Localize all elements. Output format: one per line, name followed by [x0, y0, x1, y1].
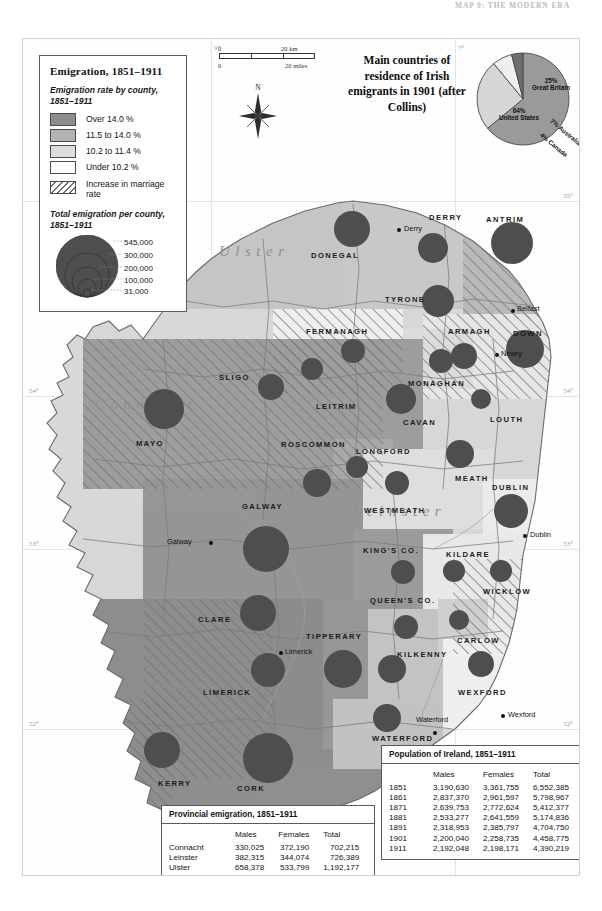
county-emigration-circle — [243, 733, 293, 783]
county-label: CORK — [237, 784, 265, 793]
county-emigration-circle — [422, 285, 454, 317]
legend-prop-subtitle: Total emigration per county, 1851–1911 — [50, 209, 176, 230]
table-column-header: Total — [519, 769, 569, 782]
county-label: MEATH — [455, 474, 489, 483]
scale-bar-body — [219, 53, 315, 59]
county-emigration-circle — [341, 339, 365, 363]
table-column-header: Females — [264, 829, 309, 842]
county-label: DONEGAL — [311, 251, 359, 260]
county-emigration-circle — [446, 440, 474, 468]
table-column-header: Total — [309, 829, 359, 842]
provincial-table-body: MalesFemalesTotal Connacht330,025372,190… — [162, 824, 374, 876]
scale-tick-1 — [251, 53, 252, 59]
legend-title: Emigration, 1851–1911 — [50, 65, 176, 77]
population-table-body: MalesFemalesTotal 18513,190,6303,361,755… — [382, 764, 580, 859]
table-cell: 372,190 — [264, 842, 309, 852]
county-emigration-circle — [451, 343, 477, 369]
county-emigration-circle — [378, 655, 406, 683]
county-label: CARLOW — [457, 636, 500, 645]
table-cell: 330,025 — [221, 842, 264, 852]
city-dot — [433, 731, 437, 735]
table-row-label: Munster — [169, 873, 221, 876]
city-label: Dublin — [530, 530, 551, 539]
table-column-header — [169, 829, 221, 842]
table-cell: 382,315 — [221, 852, 264, 862]
table-column-header: Males — [419, 769, 469, 782]
table-cell: 2,837,370 — [419, 792, 469, 802]
county-emigration-circle — [471, 389, 491, 409]
county-emigration-circle — [303, 469, 331, 497]
provincial-table-rows: Connacht330,025372,190702,215Leinster382… — [169, 842, 359, 876]
table-cell: 658,378 — [221, 862, 264, 872]
compass-north-label: N — [237, 83, 279, 92]
county-label: MAYO — [136, 439, 164, 448]
county-emigration-circle — [240, 595, 276, 631]
county-emigration-circle — [301, 358, 323, 380]
table-cell: 1,460,032 — [309, 873, 359, 876]
county-label: LONGFORD — [356, 447, 411, 456]
county-emigration-circle — [144, 389, 184, 429]
legend-hatch-row: Increase in marriage rate — [50, 180, 176, 200]
table-cell: 2,961,597 — [469, 792, 519, 802]
table-row-label: Leinster — [169, 852, 221, 862]
table-cell: 2,198,171 — [469, 843, 519, 853]
county-emigration-circle — [449, 610, 469, 630]
table-cell: 344,074 — [264, 852, 309, 862]
county-emigration-circle — [491, 222, 533, 264]
table-row: 18812,533,2772,641,5595,174,836 — [389, 813, 569, 823]
table-cell: 745,812 — [221, 873, 264, 876]
table-column-header: Females — [469, 769, 519, 782]
table-column-header — [389, 769, 419, 782]
table-cell: 2,258,735 — [469, 833, 519, 843]
county-emigration-circle — [324, 650, 362, 688]
provincial-table: MalesFemalesTotal Connacht330,025372,190… — [169, 829, 359, 876]
table-row-label: Ulster — [169, 862, 221, 872]
population-table-rows: 18513,190,6303,361,7556,552,38518612,837… — [389, 782, 569, 853]
table-row-label: 1911 — [389, 843, 419, 853]
table-row: 19112,192,0482,198,1714,390,219 — [389, 843, 569, 853]
compass-rose: N — [237, 83, 279, 143]
city-dot — [523, 534, 527, 538]
city-dot — [495, 353, 499, 357]
table-cell: 2,200,040 — [419, 833, 469, 843]
pie-chart-holder: 64%United States25%Great Britain7% Austr… — [475, 51, 571, 147]
city-dot — [279, 651, 283, 655]
table-cell: 2,318,953 — [419, 823, 469, 833]
table-cell: 2,533,277 — [419, 813, 469, 823]
provincial-emigration-table: Provincial emigration, 1851–1911 MalesFe… — [161, 805, 375, 876]
table-cell: 2,641,559 — [469, 813, 519, 823]
county-emigration-circle — [251, 653, 285, 687]
county-emigration-circle — [443, 560, 465, 582]
map-frame: 55°54°54°53°53°52°52°9°7° — [22, 38, 580, 876]
table-row: Leinster382,315344,074726,389 — [169, 852, 359, 862]
provincial-table-head: MalesFemalesTotal — [169, 829, 359, 842]
county-emigration-circle — [386, 384, 416, 414]
table-row: 19012,200,0402,258,7354,458,775 — [389, 833, 569, 843]
table-row-label: Connacht — [169, 842, 221, 852]
population-table: Population of Ireland, 1851–1911 MalesFe… — [381, 745, 580, 860]
city-dot — [397, 228, 401, 232]
legend-panel: Emigration, 1851–1911 Emigration rate by… — [39, 55, 187, 312]
county-label: DERRY — [429, 213, 463, 222]
county-label: ROSCOMMON — [281, 440, 346, 449]
table-row: Munster745,812714,2201,460,032 — [169, 873, 359, 876]
legend-class-list: Over 14.0 %11.5 to 14.0 %10.2 to 11.4 %U… — [50, 113, 176, 174]
table-cell: 726,389 — [309, 852, 359, 862]
legend-rate-subtitle: Emigration rate by county, 1851–1911 — [50, 85, 176, 106]
table-row-label: 1861 — [389, 792, 419, 802]
proportional-value-label: 100,000 — [124, 277, 153, 285]
city-label: Belfast — [517, 304, 540, 313]
city-dot — [511, 309, 515, 313]
county-emigration-circle — [391, 560, 415, 584]
table-row: 18513,190,6303,361,7556,552,385 — [389, 782, 569, 792]
table-cell: 4,704,750 — [519, 823, 569, 833]
hatch-swatch — [50, 181, 76, 194]
pie-chart-block: Main countries of residence of Irish emi… — [343, 51, 571, 147]
table-cell: 533,799 — [264, 862, 309, 872]
city-dot — [209, 541, 213, 545]
scale-km-max: 20 km — [281, 45, 297, 52]
table-header-row: MalesFemalesTotal — [389, 769, 569, 782]
county-label: GALWAY — [242, 502, 283, 511]
table-row-label: 1881 — [389, 813, 419, 823]
pie-slice-label: 25%Great Britain — [527, 77, 575, 91]
